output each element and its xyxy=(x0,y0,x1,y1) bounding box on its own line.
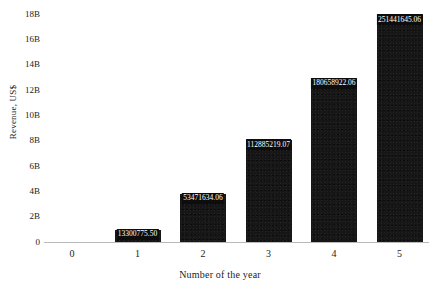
x-axis-tick-label: 5 xyxy=(380,248,420,259)
x-axis-tick-label: 4 xyxy=(314,248,354,259)
bar-chart-figure: Revenue, US$ 02B4B6B8B10B12B14B16B18B 13… xyxy=(0,0,440,291)
x-axis-tick-label: 1 xyxy=(118,248,158,259)
x-axis-tick-labels: 012345 xyxy=(0,0,440,291)
x-axis-title: Number of the year xyxy=(0,269,440,280)
x-axis-tick-label: 3 xyxy=(249,248,289,259)
x-axis-tick-label: 0 xyxy=(52,248,92,259)
x-axis-tick-label: 2 xyxy=(183,248,223,259)
